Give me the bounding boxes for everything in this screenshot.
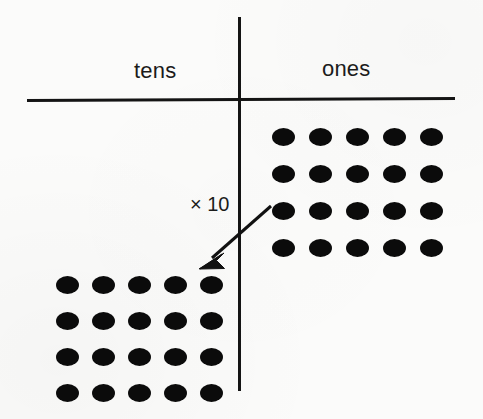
counter-dot [200, 384, 223, 402]
column-heading-tens: tens [134, 60, 176, 82]
counter-dot [383, 202, 406, 220]
counter-dot [128, 312, 151, 330]
counter-dot [200, 312, 223, 330]
counter-dot [164, 384, 187, 402]
counter-dot [309, 239, 332, 257]
counter-dot [200, 276, 223, 294]
counter-dot [309, 165, 332, 183]
counter-dot [383, 165, 406, 183]
counter-dot [346, 128, 369, 146]
counter-dot [200, 348, 223, 366]
counter-dot [92, 312, 115, 330]
counter-dot [92, 348, 115, 366]
counter-dot [420, 202, 443, 220]
counter-dot [309, 202, 332, 220]
column-heading-ones: ones [322, 58, 371, 80]
counter-dot [272, 128, 295, 146]
tens-dot-group [56, 276, 236, 419]
counter-dot [56, 276, 79, 294]
counter-dot [383, 239, 406, 257]
counter-dot [420, 165, 443, 183]
counter-dot [420, 128, 443, 146]
counter-dot [383, 128, 406, 146]
counter-dot [56, 348, 79, 366]
counter-dot [272, 165, 295, 183]
counter-dot [164, 276, 187, 294]
counter-dot [92, 276, 115, 294]
counter-dot [164, 312, 187, 330]
counter-dot [56, 312, 79, 330]
counter-dot [128, 348, 151, 366]
counter-dot [92, 384, 115, 402]
counter-dot [346, 202, 369, 220]
counter-dot [309, 128, 332, 146]
counter-dot [420, 239, 443, 257]
place-value-diagram: tens ones [0, 0, 483, 419]
arrow-down-left-icon [190, 198, 282, 278]
counter-dot [56, 384, 79, 402]
counter-dot [128, 384, 151, 402]
ones-dot-group [272, 128, 457, 276]
counter-dot [346, 165, 369, 183]
counter-dot [346, 239, 369, 257]
counter-dot [164, 348, 187, 366]
counter-dot [128, 276, 151, 294]
